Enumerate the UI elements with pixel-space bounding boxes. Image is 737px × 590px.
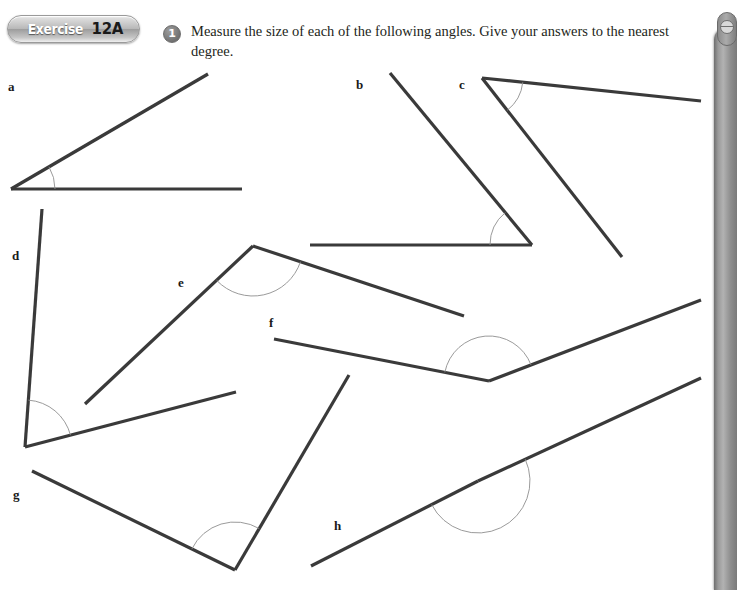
angle-d-ray-2	[25, 392, 236, 447]
angle-figure-e	[85, 246, 464, 404]
angle-b-arc	[490, 213, 505, 245]
angle-f-arc	[445, 336, 531, 372]
angle-figure-d	[25, 209, 236, 447]
figure-label-f: f	[269, 315, 273, 331]
angle-a-ray-2	[11, 74, 208, 189]
angle-g-ray-2	[235, 375, 349, 570]
angle-g-ray-1	[32, 471, 235, 570]
angle-e-ray-2	[253, 246, 464, 316]
angle-d-arc	[28, 400, 70, 435]
sidebar-strip[interactable]	[714, 28, 737, 590]
figure-label-h: h	[334, 518, 341, 534]
angle-figure-c	[482, 78, 701, 257]
sidebar-knob-icon	[720, 20, 734, 34]
angle-figures	[0, 0, 737, 590]
angle-b-ray-2	[390, 73, 532, 245]
angle-figure-h	[311, 378, 701, 566]
figure-label-g: g	[13, 487, 20, 503]
angle-a-arc	[49, 167, 55, 189]
angle-h-ray-2	[478, 378, 701, 481]
figure-label-d: d	[12, 248, 19, 264]
angle-c-ray-1	[482, 78, 701, 101]
angle-c-ray-2	[482, 78, 622, 257]
angle-e-ray-1	[85, 246, 253, 404]
angle-figure-f	[274, 300, 701, 381]
figure-label-e: e	[178, 275, 184, 291]
figure-label-c: c	[459, 77, 465, 93]
figure-label-a: a	[8, 79, 15, 95]
angle-c-arc	[507, 82, 523, 110]
worksheet-page: Exercise 12A 1 Measure the size of each …	[0, 0, 737, 590]
angle-d-ray-1	[25, 209, 42, 447]
figure-label-b: b	[356, 77, 363, 93]
angle-figure-a	[11, 74, 242, 189]
angle-f-ray-2	[489, 300, 701, 381]
angle-f-ray-1	[274, 339, 489, 381]
